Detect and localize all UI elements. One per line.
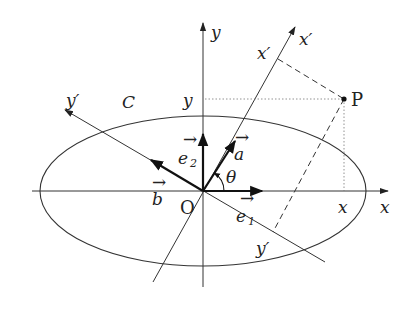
label-vec-a: → a (234, 127, 249, 164)
label-x-axis: x (380, 197, 390, 217)
dashed-projection-y-prime (273, 99, 344, 232)
dashed-projection-x-prime (278, 59, 344, 99)
svg-text:2: 2 (189, 157, 197, 170)
label-origin-o: O (180, 197, 195, 218)
label-y-axis: y (210, 22, 221, 42)
svg-text:e: e (178, 148, 188, 168)
svg-text:1: 1 (248, 215, 255, 228)
angle-theta-arc (214, 173, 224, 191)
label-vec-e2: → e 2 (178, 129, 197, 170)
label-vec-e1: → e 1 (236, 188, 255, 228)
svg-text:→: → (183, 129, 197, 149)
label-x-prime-foot: x′ (257, 43, 271, 63)
label-y-prime-end: y′ (65, 90, 80, 110)
point-p (341, 96, 346, 101)
svg-text:e: e (236, 206, 246, 226)
label-curve-c: C (122, 92, 135, 112)
label-x-prime-end: x′ (299, 29, 313, 49)
svg-text:b: b (152, 189, 163, 209)
x-prime-axis (153, 27, 295, 282)
label-point-p: P (351, 89, 363, 110)
svg-text:→: → (240, 188, 254, 208)
label-y-coord: y (182, 90, 193, 110)
label-vec-b: → b (152, 172, 166, 209)
label-x-coord: x (338, 197, 348, 217)
label-theta: θ (226, 167, 236, 187)
svg-text:a: a (234, 144, 244, 164)
rotated-axes-ellipse-diagram: y x x′ x′ y′ y′ C y x P O θ → e 2 → a → … (0, 0, 415, 310)
label-y-prime-foot: y′ (255, 238, 270, 258)
